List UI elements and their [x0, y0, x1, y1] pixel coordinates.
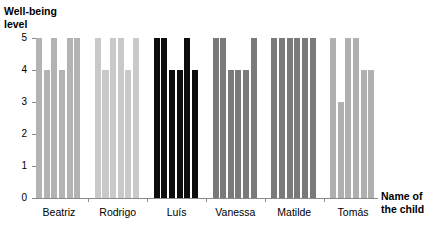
bar	[192, 70, 198, 198]
y-axis-title-line-2: level	[4, 18, 100, 31]
category-axis-tick-mark	[265, 198, 266, 202]
bar	[110, 38, 116, 198]
bar	[213, 38, 219, 198]
bar	[279, 38, 285, 198]
y-axis-tick-mark	[32, 198, 36, 199]
category-label-beatriz: Beatriz	[36, 205, 82, 219]
bar	[184, 38, 190, 198]
bar	[338, 102, 344, 198]
bar	[154, 38, 160, 198]
bar	[133, 38, 139, 198]
y-axis-tick-label: 0	[21, 191, 27, 204]
category-axis-tick-mark	[324, 198, 325, 202]
bar	[220, 38, 226, 198]
bar	[95, 38, 101, 198]
bar	[102, 70, 108, 198]
bar	[169, 70, 175, 198]
category-label-matilde: Matilde	[271, 205, 317, 219]
category-axis-tick-mark	[206, 198, 207, 202]
y-axis-title: Well-being level	[4, 5, 100, 30]
y-axis-tick-label: 3	[21, 95, 27, 108]
bar	[177, 70, 183, 198]
category-axis-tick-mark	[88, 198, 89, 202]
category-axis-tick-mark	[147, 198, 148, 202]
y-axis-tick-label: 2	[21, 127, 27, 140]
bar	[74, 38, 80, 198]
bar	[161, 38, 167, 198]
bar	[228, 70, 234, 198]
bar	[302, 38, 308, 198]
category-label-rodrigo: Rodrigo	[95, 205, 141, 219]
bar	[118, 38, 124, 198]
bar	[345, 38, 351, 198]
category-label-tomás: Tomás	[330, 205, 376, 219]
bar	[287, 38, 293, 198]
bar	[67, 38, 73, 198]
bar	[310, 38, 316, 198]
bar	[294, 38, 300, 198]
y-axis-tick-label: 5	[21, 31, 27, 44]
y-axis-title-line-1: Well-being	[4, 5, 57, 17]
bar	[353, 38, 359, 198]
bar	[44, 70, 50, 198]
bar	[36, 38, 42, 198]
bar	[243, 70, 249, 198]
bar	[361, 70, 367, 198]
x-axis-line	[36, 198, 378, 199]
plot-area	[36, 38, 376, 198]
bar	[235, 70, 241, 198]
x-axis-title-line-1: Name of	[381, 190, 422, 202]
y-axis-tick-label: 1	[21, 159, 27, 172]
bar	[368, 70, 374, 198]
bar	[251, 38, 257, 198]
bar	[330, 38, 336, 198]
x-axis-title: Name of the child	[381, 190, 434, 215]
x-axis-title-line-2: the child	[381, 203, 434, 216]
bar	[271, 38, 277, 198]
wellbeing-bar-chart: Well-being level Name of the child 01234…	[0, 0, 434, 237]
category-label-vanessa: Vanessa	[213, 205, 259, 219]
bar	[59, 70, 65, 198]
bar	[51, 38, 57, 198]
category-label-luís: Luís	[154, 205, 200, 219]
y-axis-tick-label: 4	[21, 63, 27, 76]
bar	[125, 70, 131, 198]
